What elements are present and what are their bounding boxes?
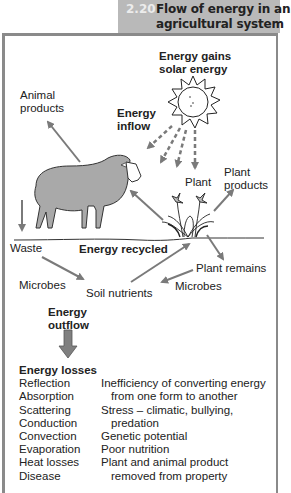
energy-outflow-arrow (59, 330, 77, 358)
energy-recycled-label: Energy recycled (79, 243, 168, 256)
ground-line (14, 238, 264, 240)
loss-row: Scattering Stress – climatic, bullying, (19, 404, 266, 417)
biological-loss: Stress – climatic, bullying, (101, 404, 233, 417)
plant-label: Plant (185, 176, 211, 189)
physical-loss: Disease (19, 470, 101, 483)
animal-products-label-2: products (20, 102, 64, 115)
plant-to-animal-arrow (131, 191, 163, 220)
loss-row: Reflection Inefficiency of converting en… (19, 377, 266, 390)
animal-products-label-1: Animal (20, 89, 55, 102)
plant-remains-label: Plant remains (196, 262, 266, 275)
microbes-left-label: Microbes (19, 279, 66, 292)
biological-loss: Inefficiency of converting energy (101, 377, 266, 390)
energy-gains-label: Energy gains (159, 50, 231, 63)
solar-inflow-arrows (148, 126, 195, 168)
physical-loss: Convection (19, 430, 101, 443)
loss-row: Absorption from one form to another (19, 390, 266, 403)
loss-row: Conduction predation (19, 417, 266, 430)
physical-loss: Evaporation (19, 443, 101, 456)
plant-icon (162, 193, 214, 237)
biological-loss: Plant and animal product (101, 456, 228, 469)
physical-loss: Scattering (19, 404, 101, 417)
energy-losses-title: Energy losses (19, 364, 266, 377)
physical-loss: Heat losses (19, 456, 101, 469)
energy-outflow-label-2: outflow (48, 319, 89, 332)
physical-loss: Reflection (19, 377, 101, 390)
waste-label: Waste (10, 242, 42, 255)
sheep-icon (35, 155, 141, 228)
plant-products-label-2: products (224, 179, 268, 192)
physical-loss: Absorption (19, 390, 101, 403)
energy-losses-list: Energy losses Reflection Inefficiency of… (19, 364, 266, 483)
solar-energy-label: solar energy (159, 63, 227, 76)
sun-icon (168, 76, 220, 128)
loss-row: Convection Genetic potential (19, 430, 266, 443)
biological-loss: Genetic potential (101, 430, 187, 443)
plant-to-remains-arrow (207, 235, 223, 259)
energy-outflow-label-1: Energy (48, 306, 87, 319)
plant-products-label-1: Plant (224, 166, 250, 179)
biological-loss: from one form to another (101, 390, 238, 403)
biological-loss: predation (101, 417, 159, 430)
physical-loss: Conduction (19, 417, 101, 430)
soil-nutrients-label: Soil nutrients (86, 287, 152, 300)
biological-loss: removed from property (101, 470, 227, 483)
biological-loss: Poor nutrition (101, 443, 169, 456)
loss-row: Disease removed from property (19, 470, 266, 483)
plant-products-arrow (214, 190, 233, 211)
energy-inflow-label-2: inflow (117, 120, 150, 133)
loss-row: Heat losses Plant and animal product (19, 456, 266, 469)
animal-products-arrow (48, 122, 80, 162)
loss-row: Evaporation Poor nutrition (19, 443, 266, 456)
energy-inflow-label-1: Energy (117, 107, 156, 120)
waste-to-soil-arrow (42, 257, 83, 279)
microbes-right-label: Microbes (175, 280, 222, 293)
